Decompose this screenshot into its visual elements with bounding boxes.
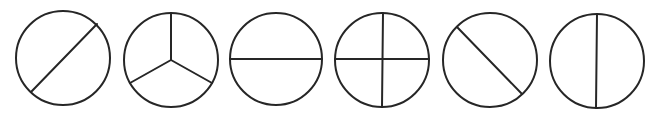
division-line	[596, 14, 597, 108]
division-line	[382, 13, 383, 107]
circle-6	[550, 14, 644, 108]
circle-3	[230, 13, 322, 105]
division-line	[31, 24, 97, 92]
division-line	[171, 60, 212, 83]
circles-figure	[0, 0, 653, 114]
circle-5	[443, 13, 537, 107]
circle-1	[16, 11, 110, 105]
division-line	[457, 27, 522, 94]
circle-4	[335, 13, 429, 107]
circle-2	[124, 13, 218, 107]
division-line	[130, 60, 171, 83]
